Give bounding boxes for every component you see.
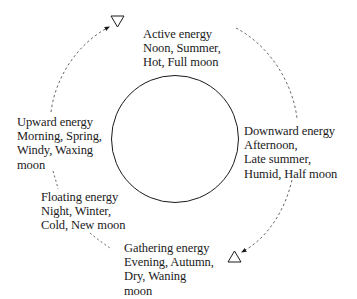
connector-active-to-downward	[236, 28, 297, 118]
stage-title: Upward energy	[17, 115, 102, 129]
connector-upward-to-floating	[53, 171, 58, 189]
stage-title: Floating energy	[41, 190, 125, 204]
energy-cycle-diagram: Active energy Noon, Summer, Hot, Full mo…	[0, 0, 357, 299]
stage-detail: Hot, Full moon	[143, 55, 221, 69]
triangle-down-icon	[111, 16, 124, 27]
stage-title: Active energy	[143, 27, 221, 41]
triangle-up-icon	[228, 251, 241, 262]
stage-label-downward: Downward energy Afternoon, Late summer, …	[244, 124, 337, 181]
connector-floating-to-gathering	[90, 233, 110, 248]
stage-detail: Evening, Autumn,	[124, 255, 214, 269]
stage-label-floating: Floating energy Night, Winter, Cold, New…	[41, 190, 125, 233]
stage-detail: Cold, New moon	[41, 218, 125, 232]
stage-detail: Humid, Half moon	[244, 167, 337, 181]
stage-title: Gathering energy	[124, 241, 214, 255]
stage-detail: Noon, Summer,	[143, 41, 221, 55]
stage-detail: Late summer,	[244, 152, 337, 166]
stage-detail: Night, Winter,	[41, 204, 125, 218]
stage-detail: Dry, Waning	[124, 269, 214, 283]
stage-detail: moon	[17, 158, 102, 172]
stage-detail: Afternoon,	[244, 138, 337, 152]
stage-title: Downward energy	[244, 124, 337, 138]
connector-upward-to-active	[51, 27, 109, 112]
stage-detail: Windy, Waxing	[17, 143, 102, 157]
connector-downward-to-gathering	[242, 180, 292, 252]
stage-label-gathering: Gathering energy Evening, Autumn, Dry, W…	[124, 241, 214, 298]
stage-label-upward: Upward energy Morning, Spring, Windy, Wa…	[17, 115, 102, 172]
stage-detail: Morning, Spring,	[17, 129, 102, 143]
stage-detail: moon	[124, 284, 214, 298]
stage-label-active: Active energy Noon, Summer, Hot, Full mo…	[143, 27, 221, 70]
center-circle	[112, 76, 239, 203]
